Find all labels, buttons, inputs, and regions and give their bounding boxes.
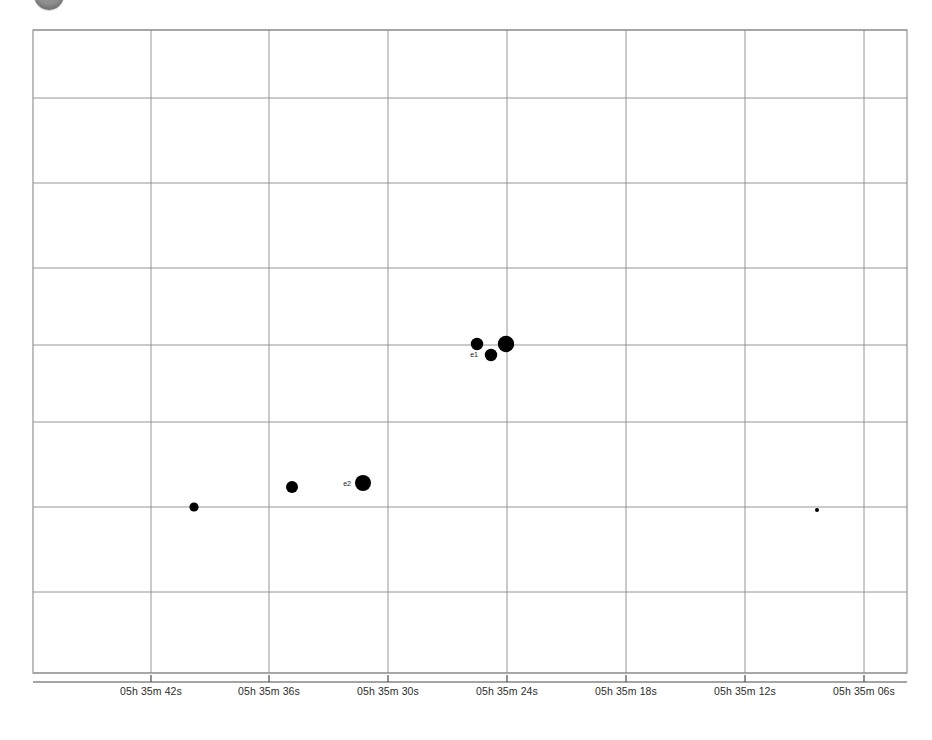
data-point-p3[interactable] <box>355 475 371 491</box>
data-point-p7[interactable] <box>815 508 819 512</box>
x-axis-tick-label-3: 05h 35m 24s <box>476 685 538 697</box>
scatter-plot-svg[interactable]: 05h 35m 42s05h 35m 36s05h 35m 30s05h 35m… <box>0 0 932 740</box>
x-axis-ticks <box>151 675 864 682</box>
x-axis-tick-label-4: 05h 35m 18s <box>595 685 657 697</box>
data-point-p5[interactable] <box>485 349 497 361</box>
x-axis-tick-label-6: 05h 35m 06s <box>833 685 895 697</box>
data-point-label-e2: e2 <box>343 480 351 487</box>
data-point-p6[interactable] <box>498 336 514 352</box>
x-axis-tick-labels: 05h 35m 42s05h 35m 36s05h 35m 30s05h 35m… <box>120 685 895 697</box>
data-point-group[interactable] <box>189 336 819 512</box>
data-point-label-e1: e1 <box>470 351 478 358</box>
x-axis-tick-label-5: 05h 35m 12s <box>714 685 776 697</box>
data-point-p4[interactable] <box>471 338 483 350</box>
x-axis-tick-label-0: 05h 35m 42s <box>120 685 182 697</box>
data-point-p1[interactable] <box>189 502 198 511</box>
star-chart-view: 05h 35m 42s05h 35m 36s05h 35m 30s05h 35m… <box>0 0 932 740</box>
x-axis-tick-label-1: 05h 35m 36s <box>238 685 300 697</box>
data-point-p2[interactable] <box>286 481 298 493</box>
x-axis-tick-label-2: 05h 35m 30s <box>357 685 419 697</box>
data-point-label-group: e1e2 <box>343 351 478 487</box>
